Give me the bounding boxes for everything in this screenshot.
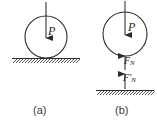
force-label-fn-prime-subscript: N <box>131 76 136 84</box>
force-label-fn-subscript: N <box>130 59 135 67</box>
panel-a <box>12 2 80 63</box>
ground-hatching-a <box>13 59 80 63</box>
caption-panel-b: (b) <box>115 104 128 116</box>
force-label-fn: FN <box>124 55 135 67</box>
force-label-p-a: P <box>48 24 55 39</box>
force-label-fn-prime: F'N <box>123 72 136 84</box>
ground-hatching-b <box>97 91 155 95</box>
caption-panel-a: (a) <box>33 104 46 116</box>
physics-figure: P P FN F'N (a) (b) <box>0 0 157 125</box>
force-label-p-b: P <box>128 20 135 35</box>
